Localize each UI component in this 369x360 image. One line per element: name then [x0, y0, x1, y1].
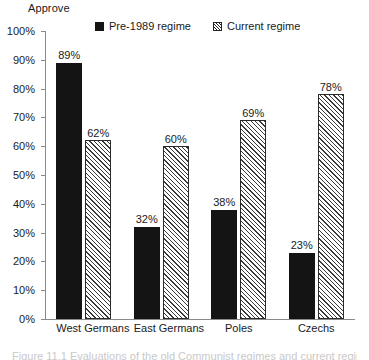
y-axis-title: Approve	[28, 2, 70, 14]
y-axis-tick-label: 0%	[19, 313, 35, 325]
bar-group: 32%60%	[134, 31, 189, 319]
y-axis-tick-label: 80%	[13, 83, 35, 95]
y-axis-tick-label: 70%	[13, 111, 35, 123]
bar-slot: 69%	[240, 31, 266, 319]
bar-slot: 38%	[211, 31, 237, 319]
y-axis-tick-label: 60%	[13, 140, 35, 152]
bar-chart: Approve Pre-1989 regime Current regime 1…	[0, 0, 369, 360]
figure-caption: Figure 11.1 Evaluations of the old Commu…	[12, 350, 357, 360]
bar-slot: 89%	[56, 31, 82, 319]
bar-value-label: 38%	[213, 196, 235, 208]
bar: 69%	[240, 120, 266, 319]
y-axis-tick-label: 10%	[13, 284, 35, 296]
bar-value-label: 60%	[165, 133, 187, 145]
bar: 32%	[134, 227, 160, 319]
bar-slot: 62%	[85, 31, 111, 319]
x-axis-category-labels: West GermansEast GermansPolesCzechs	[45, 322, 355, 334]
bar-group: 23%78%	[289, 31, 344, 319]
bar-group: 89%62%	[56, 31, 111, 319]
y-axis-tick-label: 20%	[13, 255, 35, 267]
y-axis-tick-label: 40%	[13, 198, 35, 210]
y-axis-tick: 0%	[41, 319, 45, 320]
bar-slot: 23%	[289, 31, 315, 319]
x-axis-line	[45, 319, 355, 320]
x-axis-category-label: Poles	[211, 322, 266, 334]
y-axis-tick-label: 90%	[13, 54, 35, 66]
bar-value-label: 23%	[291, 239, 313, 251]
plot-area: 100%90%80%70%60%50%40%30%20%10%0% 89%62%…	[45, 31, 355, 320]
y-axis-tick-label: 100%	[7, 25, 35, 37]
bar-slot: 60%	[163, 31, 189, 319]
bar: 60%	[163, 146, 189, 319]
legend-swatch-solid-icon	[95, 22, 104, 31]
y-axis-tick-label: 30%	[13, 227, 35, 239]
bar-value-label: 32%	[136, 213, 158, 225]
bar-value-label: 78%	[320, 81, 342, 93]
bar-value-label: 69%	[242, 107, 264, 119]
x-axis-category-label: West Germans	[56, 322, 111, 334]
bar-value-label: 89%	[58, 49, 80, 61]
bar-group: 38%69%	[211, 31, 266, 319]
x-axis-category-label: East Germans	[134, 322, 189, 334]
bar-slot: 32%	[134, 31, 160, 319]
bar: 78%	[318, 94, 344, 319]
bar: 38%	[211, 210, 237, 319]
bar: 62%	[85, 140, 111, 319]
bar-value-label: 62%	[87, 127, 109, 139]
y-axis-tick-label: 50%	[13, 169, 35, 181]
bar-slot: 78%	[318, 31, 344, 319]
bar-groups: 89%62%32%60%38%69%23%78%	[45, 31, 355, 319]
legend-swatch-hatched-icon	[213, 22, 222, 31]
x-axis-category-label: Czechs	[289, 322, 344, 334]
bar: 89%	[56, 63, 82, 319]
bar: 23%	[289, 253, 315, 319]
